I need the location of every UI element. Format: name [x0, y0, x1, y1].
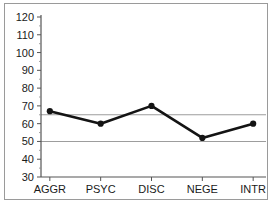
line-chart: 30405060708090100110120AGGRPSYCDISCNEGEI… — [0, 0, 275, 207]
y-tick-label-110: 110 — [16, 29, 34, 41]
y-tick-label-40: 40 — [22, 153, 34, 165]
y-tick-label-70: 70 — [22, 100, 34, 112]
y-tick-label-60: 60 — [22, 118, 34, 130]
x-tick-label-PSYC: PSYC — [86, 183, 116, 195]
y-tick-label-120: 120 — [16, 11, 34, 23]
x-tick-label-INTR: INTR — [240, 183, 266, 195]
series-profile — [47, 103, 257, 141]
data-point-NEGE — [199, 135, 205, 141]
x-tick-label-AGGR: AGGR — [34, 183, 66, 195]
data-point-INTR — [250, 121, 256, 127]
y-tick-label-80: 80 — [22, 82, 34, 94]
x-tick-label-DISC: DISC — [138, 183, 164, 195]
data-point-PSYC — [98, 121, 104, 127]
y-tick-label-90: 90 — [22, 64, 34, 76]
series-line-path — [50, 106, 253, 138]
data-point-AGGR — [47, 108, 53, 114]
x-tick-label-NEGE: NEGE — [187, 183, 218, 195]
chart-container: 30405060708090100110120AGGRPSYCDISCNEGEI… — [0, 0, 275, 207]
y-axis-ticks: 30405060708090100110120 — [16, 11, 41, 183]
reference-lines — [41, 115, 266, 142]
y-tick-label-100: 100 — [16, 47, 34, 59]
y-tick-label-30: 30 — [22, 171, 34, 183]
data-point-DISC — [148, 103, 154, 109]
y-tick-label-50: 50 — [22, 135, 34, 147]
x-axis-ticks: AGGRPSYCDISCNEGEINTR — [34, 177, 266, 195]
